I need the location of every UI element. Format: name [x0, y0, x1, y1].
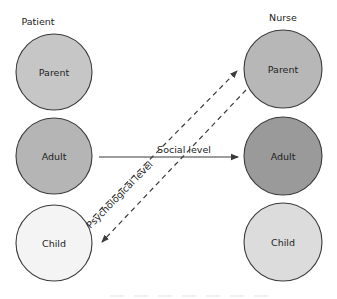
patient-column-label: Patient: [21, 16, 54, 27]
nurse-child-label: Child: [271, 237, 295, 248]
psychological-down-arrow: [102, 90, 246, 242]
nurse-adult-label: Adult: [271, 151, 296, 162]
patient-child-node: Child: [16, 205, 92, 281]
patient-child-label: Child: [42, 238, 66, 249]
patient-parent-label: Parent: [39, 67, 70, 78]
nurse-adult-node: Adult: [244, 117, 322, 195]
patient-adult-node: Adult: [16, 118, 92, 194]
transaction-diagram: Patient Nurse Parent Adult Child Parent …: [0, 0, 337, 299]
nurse-column-label: Nurse: [269, 12, 297, 23]
nurse-parent-label: Parent: [268, 64, 299, 75]
patient-parent-node: Parent: [16, 34, 92, 110]
nurse-child-node: Child: [244, 203, 322, 281]
patient-adult-label: Adult: [42, 151, 67, 162]
social-level-edge: Social level: [99, 144, 238, 157]
psychological-level-label: Psychological level: [84, 159, 155, 231]
nurse-parent-node: Parent: [244, 30, 322, 108]
social-level-label: Social level: [157, 144, 211, 155]
